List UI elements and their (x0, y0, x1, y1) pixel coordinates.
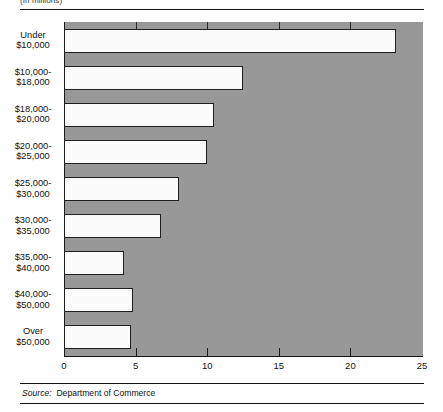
x-axis-line (64, 356, 423, 357)
category-label-line: $20,000 (2, 114, 64, 125)
category-label-line: $18,000- (2, 104, 64, 115)
x-tick-label-15: 15 (274, 360, 285, 371)
bar (64, 103, 214, 127)
bar (64, 251, 124, 275)
category-label-line: Over (2, 326, 64, 337)
bar (64, 177, 179, 201)
source-value: Department of Commerce (56, 388, 155, 398)
source-label: Source: (22, 388, 52, 398)
bar (64, 29, 396, 53)
x-tick-label-5: 5 (133, 360, 138, 371)
category-label-line: $30,000- (2, 215, 64, 226)
x-tick-5 (136, 348, 137, 357)
bar (64, 140, 207, 164)
category-label: $25,000-$30,000 (2, 178, 64, 199)
x-tick-10 (207, 348, 208, 357)
x-tick-label-10: 10 (202, 360, 213, 371)
footer-divider-bottom (20, 403, 424, 404)
chart-page: (In millions) 0510152025 Under$10,000$10… (0, 0, 443, 412)
x-tick-label-0: 0 (61, 360, 66, 371)
category-label: Over$50,000 (2, 326, 64, 347)
bar (64, 288, 133, 312)
category-label: $18,000-$20,000 (2, 104, 64, 125)
category-label-line: $30,000 (2, 189, 64, 200)
category-label: Under$10,000 (2, 30, 64, 51)
bar (64, 325, 131, 349)
header-divider (20, 9, 424, 10)
category-label-line: $10,000 (2, 40, 64, 51)
category-label: $40,000-$50,000 (2, 289, 64, 310)
category-label: $30,000-$35,000 (2, 215, 64, 236)
x-tick-label-20: 20 (345, 360, 356, 371)
category-label-line: $20,000- (2, 141, 64, 152)
bar (64, 214, 161, 238)
footer-divider-top (20, 383, 424, 384)
category-label-line: Under (2, 30, 64, 41)
category-label-line: $18,000 (2, 77, 64, 88)
source-note: Source: Department of Commerce (22, 388, 155, 398)
category-label-line: $40,000 (2, 263, 64, 274)
bar (64, 66, 243, 90)
category-label-line: $50,000 (2, 337, 64, 348)
x-tick-20 (350, 348, 351, 357)
category-label: $20,000-$25,000 (2, 141, 64, 162)
x-tick-15 (279, 348, 280, 357)
category-label-line: $50,000 (2, 300, 64, 311)
unit-note: (In millions) (20, 0, 62, 5)
x-tick-label-25: 25 (417, 360, 428, 371)
category-label-line: $25,000- (2, 178, 64, 189)
category-label-line: $10,000- (2, 67, 64, 78)
category-label: $35,000-$40,000 (2, 252, 64, 273)
category-label-line: $25,000 (2, 151, 64, 162)
category-label-line: $40,000- (2, 289, 64, 300)
category-label: $10,000-$18,000 (2, 67, 64, 88)
category-label-line: $35,000- (2, 252, 64, 263)
category-label-line: $35,000 (2, 226, 64, 237)
